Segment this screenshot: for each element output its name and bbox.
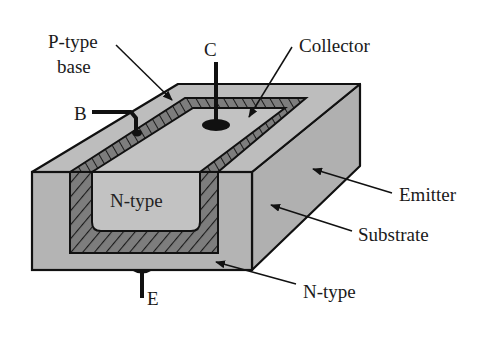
label-c-terminal: C [204, 40, 217, 59]
base-contact [132, 130, 142, 137]
label-base: base [57, 57, 91, 76]
collector-contact [202, 119, 230, 131]
label-b-terminal: B [74, 104, 87, 123]
p-type-base-leader [116, 45, 172, 100]
label-substrate: Substrate [358, 225, 429, 244]
bjt-diagram: P-type base C Collector B N-type Emitter… [0, 0, 495, 339]
label-e-terminal: E [147, 289, 159, 308]
label-n-type-bottom: N-type [303, 282, 356, 301]
label-emitter: Emitter [399, 185, 456, 204]
label-p-type: P-type [48, 32, 98, 51]
label-collector: Collector [299, 36, 370, 55]
label-n-type-inner: N-type [110, 191, 163, 210]
